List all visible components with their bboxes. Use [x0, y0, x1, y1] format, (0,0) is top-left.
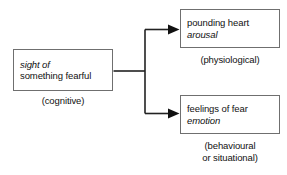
node-arousal: pounding heart arousal	[180, 9, 280, 48]
node-stimulus-line2: something fearful	[14, 70, 112, 82]
caption-emotion-line1: (behavioural	[180, 140, 280, 152]
node-stimulus: sight of something fearful	[13, 49, 113, 91]
caption-emotion-line2: or situational)	[180, 152, 280, 164]
caption-stimulus-text: (cognitive)	[13, 95, 113, 107]
caption-emotion: (behavioural or situational)	[180, 140, 280, 163]
node-emotion-line2: emotion	[181, 115, 279, 127]
node-arousal-line2: arousal	[181, 29, 279, 41]
caption-arousal-text: (physiological)	[180, 54, 280, 66]
caption-arousal: (physiological)	[180, 54, 280, 66]
node-emotion: feelings of fear emotion	[180, 95, 280, 134]
node-stimulus-line1: sight of	[14, 59, 112, 71]
node-emotion-line1: feelings of fear	[181, 103, 279, 115]
flowchart-diagram: sight of something fearful (cognitive) p…	[0, 0, 287, 175]
caption-stimulus: (cognitive)	[13, 95, 113, 107]
node-arousal-line1: pounding heart	[181, 17, 279, 29]
